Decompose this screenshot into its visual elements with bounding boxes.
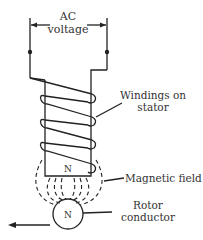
stator-pole-label: N xyxy=(64,164,72,174)
winding-4 xyxy=(41,143,93,165)
rotor-leader xyxy=(83,212,112,213)
rotor-label-1: Rotor xyxy=(133,199,164,211)
windings-label-1: Windings on xyxy=(120,89,186,101)
winding-1 xyxy=(30,78,92,94)
terminal-right xyxy=(105,50,109,54)
terminal-left xyxy=(28,50,32,54)
windings-label-2: stator xyxy=(137,101,169,113)
winding-2 xyxy=(41,96,93,118)
magnetic-field-label: Magnetic field xyxy=(125,172,202,184)
windings-leader xyxy=(96,103,122,117)
rotor-label-2: conductor xyxy=(121,211,176,223)
field-leader xyxy=(104,178,124,181)
winding-3 xyxy=(41,120,93,141)
motor-diagram: AC voltage Windings on stator Magnetic f… xyxy=(0,0,203,240)
rotor-pole-label: N xyxy=(64,210,72,220)
ac-label-2: voltage xyxy=(47,23,89,36)
arrow-head xyxy=(8,222,16,228)
ac-label-1: AC xyxy=(59,10,76,23)
